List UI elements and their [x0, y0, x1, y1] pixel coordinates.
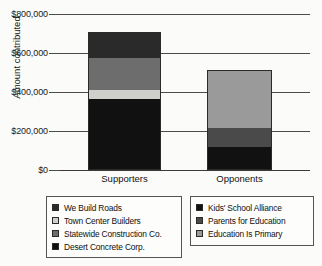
legend-swatch-icon — [52, 217, 59, 224]
legend-supporters-label: Town Center Builders — [64, 216, 141, 226]
legend-swatch-icon — [52, 230, 59, 237]
bar-segment[interactable] — [88, 90, 161, 99]
legend-supporters-item[interactable]: We Build Roads — [52, 201, 176, 214]
y-axis-tick-label: $800,000 — [11, 9, 48, 19]
bar-opponents[interactable] — [207, 70, 272, 170]
legend-opponents-label: Parents for Education — [208, 216, 285, 226]
bar-segment[interactable] — [88, 99, 161, 170]
bar-segment[interactable] — [88, 32, 161, 58]
legend-swatch-icon — [52, 204, 59, 211]
x-axis-tick-label: Supporters — [101, 173, 147, 184]
axis-baseline — [60, 170, 310, 171]
legend-opponents-item[interactable]: Kids' School Alliance — [196, 201, 308, 214]
bar-segment[interactable] — [207, 70, 272, 128]
legend-supporters-item[interactable]: Desert Concrete Corp. — [52, 240, 176, 253]
legend-opponents: Kids' School AllianceParents for Educati… — [190, 196, 314, 246]
legend-swatch-icon — [196, 230, 203, 237]
legend-supporters-label: Desert Concrete Corp. — [64, 242, 145, 252]
legend-supporters-item[interactable]: Statewide Construction Co. — [52, 227, 176, 240]
legend-opponents-item[interactable]: Education Is Primary — [196, 227, 308, 240]
legend-opponents-label: Education Is Primary — [208, 229, 282, 239]
bar-segment[interactable] — [207, 147, 272, 170]
bar-segment[interactable] — [207, 128, 272, 147]
y-axis-tick-label: $200,000 — [11, 126, 48, 136]
legend-supporters-label: Statewide Construction Co. — [64, 229, 162, 239]
x-axis-tick-label: Opponents — [216, 173, 262, 184]
y-axis-tick-mark — [49, 170, 60, 171]
y-axis-tick-label: $600,000 — [11, 48, 48, 58]
y-axis-tick-label: $400,000 — [11, 87, 48, 97]
y-axis-tick-labels: $800,000$600,000$400,000$200,000$0 — [0, 14, 48, 170]
legend-swatch-icon — [196, 217, 203, 224]
gridline — [60, 14, 310, 15]
legend-swatch-icon — [196, 204, 203, 211]
y-axis-tick-mark — [49, 14, 60, 15]
y-axis-tick-mark — [49, 92, 60, 93]
bar-segment[interactable] — [88, 58, 161, 90]
legend-supporters-label: We Build Roads — [64, 203, 122, 213]
y-axis-tick-label: $0 — [38, 165, 48, 175]
y-axis-tick-mark — [49, 131, 60, 132]
plot-area — [60, 14, 310, 170]
legend-supporters-item[interactable]: Town Center Builders — [52, 214, 176, 227]
stacked-bar-chart: Amount contributed $800,000$600,000$400,… — [0, 0, 322, 266]
legend-opponents-item[interactable]: Parents for Education — [196, 214, 308, 227]
y-axis-tick-mark — [49, 53, 60, 54]
legend-supporters: We Build RoadsTown Center BuildersStatew… — [46, 196, 182, 258]
bar-supporters[interactable] — [88, 32, 161, 170]
legend-swatch-icon — [52, 243, 59, 250]
legend-opponents-label: Kids' School Alliance — [208, 203, 282, 213]
